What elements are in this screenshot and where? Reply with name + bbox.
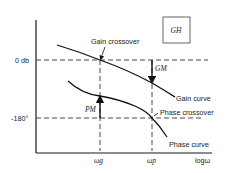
phase-crossover-pointer <box>154 113 158 116</box>
gm-label: GM <box>155 64 167 73</box>
gain-curve-label: Gain curve <box>176 94 211 103</box>
omega-p-label: ωp <box>147 156 156 165</box>
log-omega-label: logω <box>195 156 211 165</box>
phase-curve-label: Phase curve <box>169 140 209 149</box>
gain-crossover-pointer <box>101 47 105 58</box>
gain-curve-pointer <box>170 94 175 97</box>
gh-label: GH <box>171 26 182 35</box>
minus-180-label: -180° <box>11 114 28 123</box>
gain-crossover-label: Gain crossover <box>91 37 140 46</box>
pm-label: PM <box>84 105 97 114</box>
omega-g-label: ωg <box>94 156 103 165</box>
phase-crossover-label: Phase crossover <box>160 108 214 117</box>
bode-diagram: GH 0 db -180° Gain crossover Gain curve … <box>0 0 231 173</box>
zero-db-label: 0 db <box>15 56 29 65</box>
